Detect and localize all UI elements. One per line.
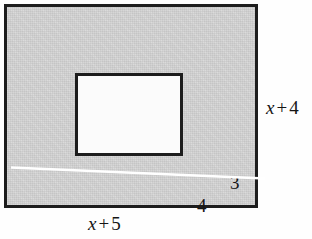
geometry-figure: 3 4 x+4 x+5 [0,0,312,239]
shaded-outer-rectangle: 3 4 [4,4,258,208]
inner-rectangle-height-label: 3 [230,173,240,192]
white-inner-rectangle: 3 4 [75,73,183,156]
inner-height-value: 3 [230,172,240,193]
scan-artifact-line [11,163,265,183]
outer-width-constant: 5 [111,213,121,234]
outer-rectangle-height-label: x+4 [266,98,299,117]
outer-height-constant: 4 [289,97,299,118]
outer-rectangle-width-label: x+5 [88,214,121,233]
inner-width-value: 4 [197,195,207,216]
outer-width-operator: + [96,213,111,234]
inner-rectangle-width-label: 4 [197,196,207,215]
outer-height-operator: + [274,97,289,118]
scan-artifact-streak [11,163,265,183]
